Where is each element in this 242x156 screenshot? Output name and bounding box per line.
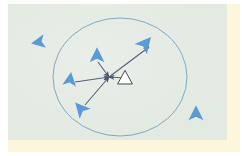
neighbor-left [62, 71, 78, 87]
neighbor-outside-top-left [30, 34, 46, 50]
figure-root [0, 0, 242, 156]
neighbor-upper-center [90, 47, 105, 62]
neighborhood-circle-group [53, 18, 187, 136]
vector-from-upper-center [98, 62, 109, 77]
sensing-radius-circle [53, 18, 187, 136]
vector-group [75, 47, 149, 105]
vector-to-upper-right [109, 47, 149, 77]
scan-left-gutter [0, 0, 8, 156]
scan-top-gutter [0, 0, 242, 4]
swarm-diagram [8, 4, 227, 140]
neighbor-lower-left [70, 98, 91, 119]
vector-from-lower-left [85, 77, 109, 105]
neighbor-upper-right [135, 32, 158, 55]
neighbor-outside-bottom-right [189, 105, 204, 120]
vector-from-left [75, 77, 109, 82]
